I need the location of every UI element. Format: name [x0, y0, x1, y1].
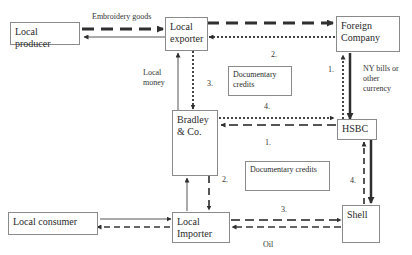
label-embroidery-goods: Embroidery goods: [92, 12, 151, 22]
node-label: Local consumer: [13, 216, 77, 227]
step-1-mid: 1.: [265, 138, 271, 148]
node-hsbc: HSBC: [337, 119, 377, 140]
node-label: Shell: [347, 209, 368, 220]
step-4-right: 4.: [350, 176, 356, 186]
step-2-top: 2.: [271, 50, 277, 60]
node-label: Local exporter: [170, 21, 203, 44]
label-ny-bills: NY bills or other currency: [363, 64, 405, 94]
note-documentary-credits-top: Documentary credits: [228, 66, 292, 96]
node-label: HSBC: [342, 123, 368, 134]
note-label: Documentary credits: [250, 165, 317, 174]
node-local-importer: Local Importer: [172, 212, 230, 243]
note-label: Documentary credits: [233, 70, 277, 89]
step-2-mid: 2.: [222, 175, 228, 185]
step-3-bottom: 3.: [281, 205, 287, 215]
step-4-top: 4.: [264, 102, 270, 112]
node-label: Local producer: [15, 26, 51, 49]
node-local-exporter: Local exporter: [165, 17, 208, 51]
node-foreign-company: Foreign Company: [336, 16, 400, 52]
node-bradley: Bradley & Co.: [172, 110, 218, 176]
node-shell: Shell: [342, 205, 380, 243]
node-local-consumer: Local consumer: [8, 212, 98, 235]
node-label: Foreign Company: [341, 20, 380, 43]
node-local-producer: Local producer: [10, 22, 80, 45]
label-local-money: Local money: [143, 68, 173, 88]
step-3-left: 3.: [207, 79, 213, 89]
node-label: Local Importer: [177, 216, 212, 239]
node-label: Bradley & Co.: [177, 114, 209, 137]
label-oil: Oil: [263, 240, 273, 250]
note-documentary-credits-bottom: Documentary credits: [245, 161, 330, 191]
step-1-right: 1.: [328, 65, 334, 75]
